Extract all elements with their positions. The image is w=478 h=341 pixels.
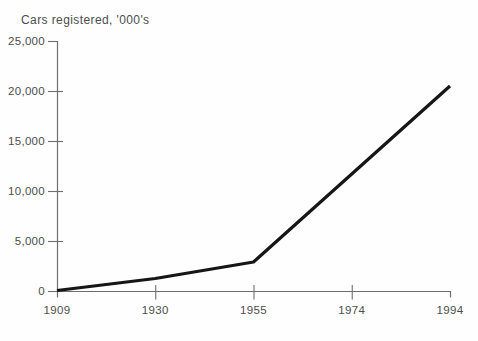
x-tick-label: 1994 xyxy=(437,304,464,316)
y-tick-label: 10,000 xyxy=(8,185,45,197)
y-tick-label: 25,000 xyxy=(8,35,45,47)
x-tick-label: 1974 xyxy=(338,304,365,316)
data-line-cars-registered xyxy=(57,86,450,291)
y-tick-label: 0 xyxy=(38,285,45,297)
line-chart: Cars registered, '000's 05,00010,00015,0… xyxy=(0,0,478,341)
x-tick-label: 1909 xyxy=(44,304,71,316)
y-tick-label: 20,000 xyxy=(8,85,45,97)
y-tick-label: 5,000 xyxy=(15,235,45,247)
plot-area: 05,00010,00015,00020,00025,0001909193019… xyxy=(0,0,478,341)
y-tick-label: 15,000 xyxy=(8,135,45,147)
x-tick-label: 1955 xyxy=(240,304,267,316)
x-tick-label: 1930 xyxy=(142,304,169,316)
